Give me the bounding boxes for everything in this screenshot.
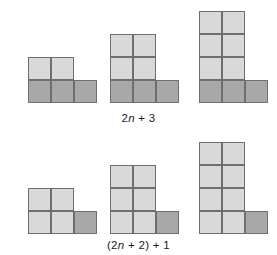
figure-bottom-3-light-block-r4c2 <box>222 142 245 165</box>
figure-bottom-3-light-block-r2c1 <box>199 188 222 211</box>
figure-bottom-3-light-block-r4c1 <box>199 142 222 165</box>
figure-bottom-3-light-block-r1c1 <box>199 211 222 234</box>
figure-bottom-3-dark-block-1 <box>245 211 268 234</box>
figure-bottom-3-light-block-r1c2 <box>222 211 245 234</box>
figure-bottom-3-light-block-r2c2 <box>222 188 245 211</box>
caption-bottom-prefix: (2 <box>107 239 118 251</box>
caption-bottom: (2n + 2) + 1 <box>0 239 277 251</box>
caption-bottom-suffix: + 2) + 1 <box>124 239 170 251</box>
figure-bottom-3-light-block-r3c2 <box>222 165 245 188</box>
block-diagram: 2n + 3 (2n + 2) + 1 <box>0 0 277 255</box>
figure-bottom-3-light-block-r3c1 <box>199 165 222 188</box>
figure-bottom-3 <box>0 0 277 255</box>
